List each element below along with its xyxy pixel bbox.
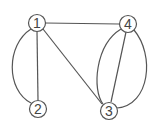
- node-3: 3: [101, 103, 118, 120]
- edge-4-3-curved-left: [97, 29, 121, 104]
- edges: [12, 23, 146, 108]
- edge-1-3: [43, 29, 102, 104]
- node-2: 2: [30, 101, 47, 118]
- node-label: 2: [34, 101, 42, 117]
- edge-4-3-straight: [111, 32, 126, 102]
- edge-1-4: [45, 23, 119, 24]
- node-label: 1: [33, 15, 41, 31]
- node-label: 3: [105, 103, 113, 119]
- node-1: 1: [29, 15, 46, 32]
- edge-4-3-curved-right: [117, 30, 147, 108]
- node-label: 4: [124, 16, 132, 32]
- node-4: 4: [120, 16, 137, 33]
- edge-1-2-straight: [37, 31, 38, 100]
- graph-diagram: 1 4 2 3: [0, 0, 156, 129]
- edge-1-2-curved: [12, 29, 31, 103]
